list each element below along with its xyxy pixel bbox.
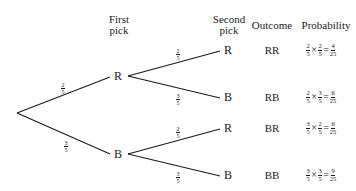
frac-den: 5 [307,98,310,105]
header-first-pick: First pick [104,14,134,36]
frac-num: 3 [176,171,180,178]
header-outcome: Outcome [249,20,295,31]
times-symbol: × [311,91,317,102]
node-second-R-2: R [224,122,232,134]
frac-num: 2 [61,82,65,89]
node-first-R: R [114,70,122,82]
frac-den: 25 [330,51,337,58]
frac-den: 5 [65,147,68,153]
header-probability: Probability [296,20,356,31]
frac-den: 5 [177,178,180,184]
probability-RB: 25×35=625 [306,90,336,104]
probability-RR: 25×25=425 [306,43,336,57]
frac-den: 5 [307,51,310,58]
frac-num: 2 [176,48,180,55]
outcome-RR: RR [257,45,287,56]
frac-num: 3 [64,140,68,147]
equals-symbol: = [323,44,329,55]
times-symbol: × [311,122,317,133]
frac-den: 5 [177,133,180,139]
frac-den: 5 [318,98,321,105]
branch-label-B-B: 35 [176,167,180,185]
branch-label-root-R: 25 [61,78,65,96]
frac-den: 5 [307,176,310,183]
frac-den: 25 [330,98,337,105]
frac-num: 2 [176,126,180,133]
branch-R-to-B [128,76,220,98]
frac-den: 5 [318,176,321,183]
branch-R-to-R [128,51,220,76]
equals-symbol: = [323,122,329,133]
probability-BB: 35×35=925 [306,168,336,182]
branch-label-root-B: 35 [64,136,68,154]
header-first-pick-line2: pick [104,25,134,36]
node-second-R-1: R [224,44,232,56]
frac-den: 5 [177,55,180,61]
frac-den: 5 [62,89,65,95]
outcome-RB: RB [257,92,287,103]
branch-B-to-R [128,129,220,154]
outcome-BR: BR [257,123,287,134]
frac-den: 5 [318,129,321,136]
times-symbol: × [311,44,317,55]
branch-label-R-R: 25 [176,44,180,62]
node-second-B-2: B [224,169,232,181]
header-second-pick-line2: pick [211,25,247,36]
branch-label-B-R: 25 [176,122,180,140]
probability-BR: 35×25=625 [306,121,336,135]
equals-symbol: = [323,169,329,180]
header-second-pick: Second pick [211,14,247,36]
times-symbol: × [311,169,317,180]
node-second-B-1: B [224,91,232,103]
outcome-BB: BB [257,170,287,181]
equals-symbol: = [323,91,329,102]
frac-den: 25 [330,129,337,136]
frac-den: 5 [177,100,180,106]
frac-den: 25 [330,176,337,183]
frac-den: 5 [307,129,310,136]
branch-label-R-B: 35 [176,89,180,107]
frac-den: 5 [318,51,321,58]
node-first-B: B [114,148,122,160]
frac-num: 3 [176,93,180,100]
branch-B-to-B [128,154,220,176]
